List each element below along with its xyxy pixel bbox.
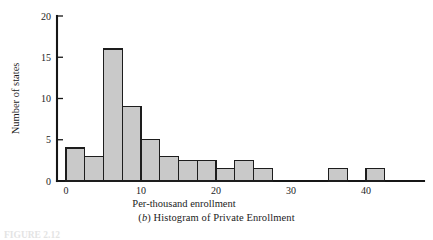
y-tick-label-5: 5 <box>46 134 51 145</box>
x-tick-label-40: 40 <box>361 185 371 196</box>
histogram-bar <box>197 160 216 181</box>
histogram-bar <box>329 169 348 181</box>
y-axis-group: 0 5 10 15 20 Number of states <box>10 11 63 187</box>
histogram-bar <box>85 156 104 181</box>
y-tick-label-15: 15 <box>41 52 51 63</box>
histogram-plot: 0 5 10 15 20 Number of states 0 10 20 30… <box>0 0 433 240</box>
figure-container: 0 5 10 15 20 Number of states 0 10 20 30… <box>0 0 433 240</box>
x-tick-label-10: 10 <box>136 185 146 196</box>
figure-caption: (b) Histogram of Private Enrollment <box>0 212 433 223</box>
histogram-bar <box>179 160 198 181</box>
y-tick-label-10: 10 <box>41 93 51 104</box>
x-axis-group: 0 10 20 30 40 Per-thousand enrollment <box>57 181 424 209</box>
x-axis-title: Per-thousand enrollment <box>132 198 235 209</box>
histogram-bar <box>104 49 123 181</box>
histogram-bar <box>235 160 254 181</box>
y-tick-label-20: 20 <box>41 11 51 22</box>
histogram-bar <box>160 156 179 181</box>
x-tick-label-30: 30 <box>286 185 296 196</box>
histogram-bars <box>66 49 385 181</box>
histogram-bar <box>216 169 235 181</box>
figure-number-label: FIGURE 2.12 <box>4 230 124 240</box>
histogram-bar <box>366 169 385 181</box>
y-tick-label-0: 0 <box>46 176 51 187</box>
caption-suffix: ) Histogram of Private Enrollment <box>147 212 294 223</box>
histogram-bar <box>141 140 160 181</box>
x-tick-label-20: 20 <box>211 185 221 196</box>
histogram-bar <box>254 169 273 181</box>
y-axis-title: Number of states <box>10 63 21 135</box>
histogram-bar <box>66 148 85 181</box>
x-tick-label-0: 0 <box>64 185 69 196</box>
histogram-bar <box>122 107 141 181</box>
